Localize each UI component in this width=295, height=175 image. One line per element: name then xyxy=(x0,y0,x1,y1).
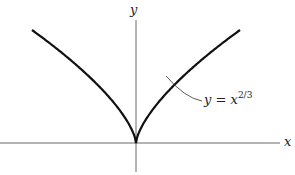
plot-svg xyxy=(0,0,295,175)
curve-label: y = x2/3 xyxy=(204,92,252,107)
curve-label-base: x xyxy=(231,92,238,107)
curve-label-eq: = xyxy=(216,92,227,107)
y-axis-label: y xyxy=(130,2,137,17)
graph: y x y = x2/3 xyxy=(0,0,295,175)
x-axis-label: x xyxy=(284,134,291,149)
curve-label-lhs: y xyxy=(204,92,211,107)
curve-label-exp: 2/3 xyxy=(238,90,252,100)
